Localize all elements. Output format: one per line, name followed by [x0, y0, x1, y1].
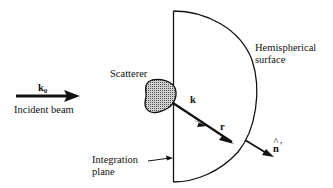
incident-vector-label: k0 [38, 82, 48, 95]
scatterer-blob [145, 79, 176, 112]
integration-plane-label-line2: plane [92, 166, 115, 177]
integration-plane-pointer [148, 156, 173, 162]
scattering-diagram: k0 Incident beam Scatterer k r n ^ ′ Hem… [0, 0, 333, 188]
hemispherical-label-line2: surface [255, 54, 286, 65]
svg-text:′: ′ [280, 140, 282, 151]
integration-plane-label-line1: Integration [92, 154, 139, 165]
scattered-vector-label: k [190, 94, 196, 105]
hemispherical-surface-arc [174, 11, 257, 182]
incident-beam-label: Incident beam [14, 104, 74, 115]
svg-text:^: ^ [274, 136, 279, 147]
hemispherical-label-line1: Hemispherical [255, 42, 316, 53]
position-vector-label: r [220, 121, 225, 132]
normal-vector-label: n ^ ′ [273, 136, 282, 154]
scatterer-label: Scatterer [110, 68, 148, 79]
scattered-vector-arrow [173, 103, 234, 144]
normal-vector-arrow [245, 140, 274, 157]
incident-beam-arrow [16, 90, 80, 102]
